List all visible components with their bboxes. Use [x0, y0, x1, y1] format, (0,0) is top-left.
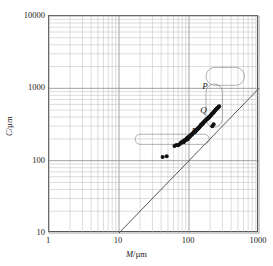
y-tick-label: 100 [32, 156, 45, 165]
x-tick-label: 1000 [243, 236, 273, 245]
x-tick-label: 1 [33, 236, 63, 245]
plot-area [48, 15, 258, 232]
x-axis-title: M/µm [0, 249, 273, 259]
chart-figure: 10100100010000 1101001000 M/µm C/µm PQR [0, 0, 273, 266]
x-tick-label: 10 [103, 236, 133, 245]
y-axis-title-unit: /µm [4, 116, 14, 130]
region-label-p: P [202, 82, 208, 91]
y-tick-label: 1000 [28, 83, 45, 92]
region-label-r: R [191, 127, 197, 136]
x-axis-title-unit: /µm [133, 249, 147, 259]
scatter-points [49, 16, 259, 233]
y-axis-title: C/µm [4, 96, 16, 156]
region-label-q: Q [200, 106, 207, 115]
data-layer [49, 16, 257, 231]
y-axis-title-symbol: C [4, 130, 14, 136]
x-tick-label: 100 [173, 236, 203, 245]
y-tick-label: 10000 [24, 11, 45, 20]
